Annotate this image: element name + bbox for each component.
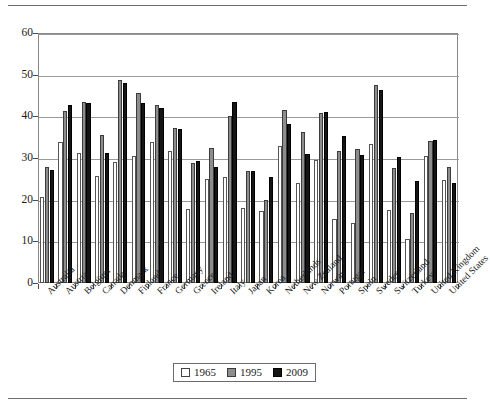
bar-new-zealand-1965 bbox=[296, 183, 300, 283]
bar-denmark-1995 bbox=[118, 80, 122, 283]
bar-group bbox=[367, 33, 385, 283]
bar-group bbox=[111, 33, 129, 283]
bar-italy-1965 bbox=[223, 177, 227, 283]
legend-item-1965: 1965 bbox=[181, 367, 216, 378]
bar-australia-1965 bbox=[40, 197, 44, 283]
bar-finland-1995 bbox=[136, 93, 140, 283]
y-tick-label: 40 bbox=[5, 110, 33, 121]
legend-swatch-1995-icon bbox=[227, 368, 236, 377]
bar-canada-1965 bbox=[95, 176, 99, 283]
bar-belgium-2009 bbox=[86, 103, 90, 283]
y-tick-label: 30 bbox=[5, 152, 33, 163]
bar-austria-1965 bbox=[58, 142, 62, 283]
bar-canada-1995 bbox=[100, 135, 104, 283]
chart-legend: 1965 1995 2009 bbox=[173, 363, 316, 382]
bar-denmark-1965 bbox=[113, 162, 117, 283]
bar-france-1995 bbox=[155, 105, 159, 283]
bar-norway-2009 bbox=[324, 112, 328, 283]
bar-group bbox=[275, 33, 293, 283]
x-tick-mark bbox=[38, 284, 39, 289]
bar-france-2009 bbox=[159, 108, 163, 283]
bar-united-states-1995 bbox=[447, 167, 451, 283]
legend-item-1995: 1995 bbox=[227, 367, 262, 378]
y-tick-30: 30 bbox=[0, 152, 33, 163]
bar-group bbox=[166, 33, 184, 283]
bar-germany-1995 bbox=[173, 128, 177, 283]
bar-group bbox=[148, 33, 166, 283]
legend-swatch-1965-icon bbox=[181, 368, 190, 377]
y-tick-0: 0 bbox=[0, 277, 33, 288]
y-tick-10: 10 bbox=[0, 235, 33, 246]
bar-germany-2009 bbox=[178, 129, 182, 283]
bar-spain-1995 bbox=[355, 149, 359, 283]
bar-group bbox=[56, 33, 74, 283]
bar-group bbox=[75, 33, 93, 283]
bar-group bbox=[330, 33, 348, 283]
bar-austria-1995 bbox=[63, 111, 67, 283]
bar-canada-2009 bbox=[105, 153, 109, 283]
bar-netherlands-1965 bbox=[278, 146, 282, 283]
bar-australia-1995 bbox=[45, 167, 49, 283]
y-tick-label: 20 bbox=[5, 194, 33, 205]
bar-group bbox=[440, 33, 458, 283]
bar-group bbox=[38, 33, 56, 283]
bar-sweden-1995 bbox=[374, 85, 378, 283]
top-divider-rule bbox=[8, 5, 467, 6]
bar-ireland-2009 bbox=[214, 167, 218, 283]
bar-ireland-1965 bbox=[205, 179, 209, 283]
bar-group bbox=[202, 33, 220, 283]
bar-italy-1995 bbox=[228, 116, 232, 283]
bar-group bbox=[312, 33, 330, 283]
bar-switzerland-1995 bbox=[392, 168, 396, 283]
bar-greece-1995 bbox=[191, 163, 195, 283]
y-tick-label: 0 bbox=[5, 277, 33, 288]
y-tick-label: 10 bbox=[5, 235, 33, 246]
bar-australia-2009 bbox=[50, 170, 54, 283]
bar-korea-2009 bbox=[269, 177, 273, 283]
bar-germany-1965 bbox=[168, 151, 172, 283]
bar-finland-1965 bbox=[132, 156, 136, 283]
y-tick-label: 50 bbox=[5, 69, 33, 80]
bar-japan-1995 bbox=[246, 171, 250, 283]
bar-austria-2009 bbox=[68, 105, 72, 283]
legend-item-2009: 2009 bbox=[273, 367, 308, 378]
bar-group bbox=[294, 33, 312, 283]
bar-denmark-2009 bbox=[123, 83, 127, 283]
bar-united-states-1965 bbox=[442, 180, 446, 283]
bar-group bbox=[257, 33, 275, 283]
y-tick-60: 60 bbox=[0, 27, 33, 38]
bar-finland-2009 bbox=[141, 103, 145, 283]
y-tick-40: 40 bbox=[0, 110, 33, 121]
bars-layer bbox=[38, 33, 458, 283]
bar-united-kingdom-2009 bbox=[433, 140, 437, 283]
bar-italy-2009 bbox=[232, 102, 236, 283]
y-tick-50: 50 bbox=[0, 69, 33, 80]
bar-japan-1965 bbox=[241, 208, 245, 283]
bar-netherlands-2009 bbox=[287, 124, 291, 283]
bar-netherlands-1995 bbox=[282, 110, 286, 283]
legend-swatch-2009-icon bbox=[273, 368, 282, 377]
bar-group bbox=[184, 33, 202, 283]
bar-france-1965 bbox=[150, 142, 154, 283]
bar-spain-2009 bbox=[360, 155, 364, 283]
bar-belgium-1965 bbox=[77, 153, 81, 283]
bar-korea-1995 bbox=[264, 200, 268, 283]
bar-korea-1965 bbox=[259, 211, 263, 283]
bar-group bbox=[93, 33, 111, 283]
bar-group bbox=[239, 33, 257, 283]
bar-new-zealand-1995 bbox=[301, 132, 305, 283]
bar-group bbox=[129, 33, 147, 283]
legend-label-2009: 2009 bbox=[286, 367, 308, 378]
bar-belgium-1995 bbox=[82, 102, 86, 283]
bar-group bbox=[221, 33, 239, 283]
y-tick-label: 60 bbox=[5, 27, 33, 38]
bottom-divider-rule bbox=[8, 398, 467, 399]
bar-group bbox=[348, 33, 366, 283]
legend-label-1995: 1995 bbox=[240, 367, 262, 378]
y-tick-20: 20 bbox=[0, 194, 33, 205]
bar-ireland-1995 bbox=[209, 148, 213, 283]
bar-group bbox=[385, 33, 403, 283]
bar-group bbox=[403, 33, 421, 283]
bar-japan-2009 bbox=[251, 171, 255, 283]
